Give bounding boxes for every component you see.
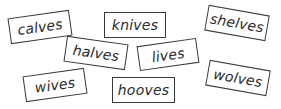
word-card-knives[interactable]: knives bbox=[104, 12, 166, 38]
word-card-calves[interactable]: calves bbox=[7, 10, 72, 44]
word-card-lives[interactable]: lives bbox=[137, 38, 200, 71]
word-card-wolves[interactable]: wolves bbox=[205, 60, 271, 96]
word-card-wives[interactable]: wives bbox=[22, 68, 87, 102]
word-card-hooves[interactable]: hooves bbox=[112, 77, 175, 103]
word-card-shelves[interactable]: shelves bbox=[204, 5, 270, 41]
word-card-halves[interactable]: halves bbox=[63, 36, 128, 70]
